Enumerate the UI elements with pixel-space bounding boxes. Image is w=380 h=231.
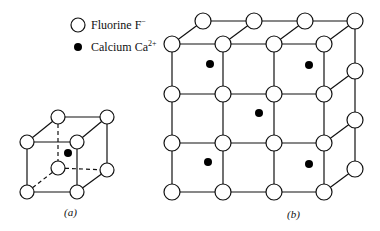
legend-calcium-charge: 2+ bbox=[148, 39, 157, 48]
caption-a: (a) bbox=[64, 206, 77, 218]
caption-b: (b) bbox=[287, 208, 300, 220]
legend-fluorine-label: Fluorine F bbox=[91, 18, 141, 32]
fluorine-legend-icon bbox=[71, 18, 85, 32]
legend-calcium-label: Calcium Ca bbox=[91, 40, 148, 54]
cube-b-fluorine-ions bbox=[164, 13, 363, 200]
legend-fluorine: Fluorine F− bbox=[91, 18, 146, 32]
calcium-legend-icon bbox=[74, 43, 82, 51]
cube-a-calcium-ion bbox=[64, 149, 72, 157]
legend-fluorine-charge: − bbox=[141, 17, 146, 26]
fluorite-structure-diagram bbox=[0, 0, 380, 231]
legend-calcium: Calcium Ca2+ bbox=[91, 40, 157, 54]
cube-b-calcium-ions bbox=[204, 60, 313, 168]
